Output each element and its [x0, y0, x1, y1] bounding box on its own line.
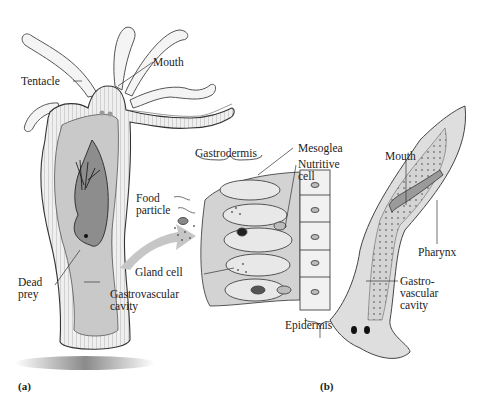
label-epidermis: Epidermis [285, 319, 332, 331]
planarian-illustration [330, 106, 466, 358]
panel-label-a: (a) [18, 380, 31, 392]
label-dead-prey: Dead prey [18, 276, 42, 300]
label-nutritive-cell: Nutritive cell [298, 158, 340, 182]
diagram-artwork [0, 0, 479, 403]
panel-label-b: (b) [320, 380, 333, 392]
label-gastrodermis: Gastrodermis [195, 147, 257, 159]
label-gastrovascular-cavity-a: Gastrovascular cavity [110, 288, 179, 312]
label-pharynx: Pharynx [418, 246, 456, 258]
label-tentacle: Tentacle [21, 75, 60, 87]
label-gland-cell: Gland cell [135, 266, 183, 278]
ground-shadow [15, 356, 155, 370]
label-mouth-a: Mouth [153, 56, 184, 68]
label-gastrovascular-cavity-b: Gastro- vascular cavity [400, 275, 438, 311]
label-mesoglea: Mesoglea [298, 142, 343, 154]
magnify-arrow [120, 224, 196, 270]
label-food-particle: Food particle [136, 192, 170, 216]
label-mouth-b: Mouth [385, 150, 416, 162]
